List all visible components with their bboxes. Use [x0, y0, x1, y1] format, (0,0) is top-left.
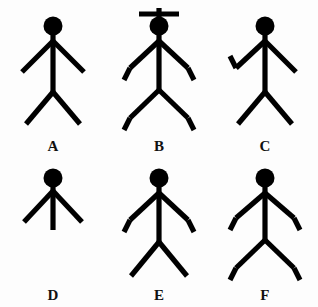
right-arm-d	[53, 191, 82, 222]
right-leg-f	[265, 240, 294, 268]
right-leg-a	[53, 92, 80, 124]
left-leg-b	[130, 90, 159, 118]
figure-label-e: E	[154, 288, 164, 303]
head-a	[44, 17, 63, 36]
figure-label-f: F	[260, 288, 269, 303]
left-forearm-c	[230, 56, 236, 68]
left-forearm-e	[124, 220, 130, 232]
right-arm-c	[265, 41, 296, 72]
left-forearm-b	[124, 68, 130, 80]
figure-cell-c: C	[212, 0, 318, 154]
figure-label-c: C	[259, 139, 270, 154]
figure-cell-e: E	[106, 154, 212, 307]
figure-sheet: A B	[0, 0, 318, 307]
left-upper-arm-f	[236, 193, 265, 218]
right-upper-arm-f	[265, 193, 294, 218]
head-d	[44, 169, 63, 188]
left-upper-arm-b	[130, 41, 159, 68]
stick-figure-b	[106, 8, 212, 134]
right-leg-e	[159, 242, 187, 276]
left-upper-arm-c	[236, 41, 265, 68]
stick-figure-e	[106, 160, 212, 286]
right-foot-f	[294, 268, 300, 280]
left-leg-a	[26, 92, 53, 124]
figure-label-d: D	[47, 288, 58, 303]
right-foot-b	[188, 118, 194, 130]
stick-figure-f	[212, 160, 318, 286]
left-forearm-f	[230, 218, 236, 230]
head-c	[256, 17, 275, 36]
figure-cell-a: A	[0, 0, 106, 154]
left-leg-f	[236, 240, 265, 268]
figure-cell-f: F	[212, 154, 318, 307]
right-upper-arm-b	[159, 41, 188, 68]
stick-figure-c	[212, 8, 318, 134]
right-leg-b	[159, 90, 188, 118]
left-foot-f	[230, 268, 236, 280]
figure-grid: A B	[0, 0, 318, 307]
head-f	[256, 169, 275, 188]
left-arm-d	[24, 191, 53, 222]
right-arm-a	[53, 41, 84, 72]
left-leg-e	[131, 242, 159, 276]
head-e	[150, 169, 169, 188]
head-b	[150, 17, 169, 36]
left-foot-b	[124, 118, 130, 130]
figure-label-b: B	[154, 139, 164, 154]
figure-cell-b: B	[106, 0, 212, 154]
left-leg-c	[238, 92, 265, 124]
left-arm-a	[22, 41, 53, 72]
right-forearm-e	[188, 220, 194, 232]
right-leg-c	[265, 92, 292, 124]
right-upper-arm-e	[159, 193, 188, 220]
stick-figure-d	[0, 160, 106, 286]
figure-cell-d: D	[0, 154, 106, 307]
figure-label-a: A	[47, 139, 58, 154]
right-forearm-b	[188, 68, 194, 80]
stick-figure-a	[0, 8, 106, 134]
right-forearm-f	[294, 218, 300, 230]
left-upper-arm-e	[130, 193, 159, 220]
